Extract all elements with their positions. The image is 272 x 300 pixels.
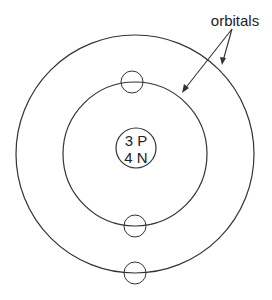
arrow-outer-orbit [223,29,232,61]
orbitals-annotation: orbitals [182,12,259,93]
nucleus-neutrons: 4 N [124,149,147,166]
arrowhead-outer-icon [220,57,226,65]
nucleus-protons: 3 P [125,132,148,149]
orbitals-label: orbitals [211,12,259,29]
atom-diagram: 3 P 4 N orbitals [0,0,272,300]
nucleus: 3 P 4 N [116,128,156,168]
